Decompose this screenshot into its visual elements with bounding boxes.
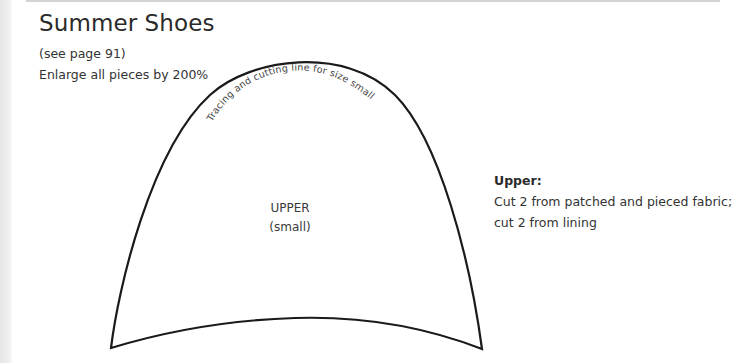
instructions-heading: Upper: <box>494 170 732 191</box>
instructions-line-1: Cut 2 from patched and pieced fabric; <box>494 191 732 212</box>
cutting-line-label: Tracing and cutting line for size small <box>204 62 377 124</box>
instructions-line-2: cut 2 from lining <box>494 212 732 233</box>
cutting-instructions: Upper: Cut 2 from patched and pieced fab… <box>494 170 732 233</box>
piece-size: (small) <box>240 218 340 237</box>
piece-name: UPPER <box>240 199 340 218</box>
piece-label: UPPER (small) <box>240 199 340 237</box>
